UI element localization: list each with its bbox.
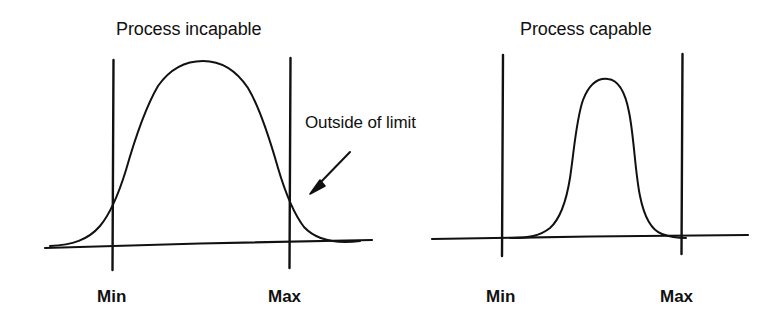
spec-limit-max-label-right: Max xyxy=(660,288,693,305)
distribution-curve-capable xyxy=(512,79,686,238)
baseline-right xyxy=(432,235,748,239)
panel-left xyxy=(45,58,372,270)
panel-title-capable: Process capable xyxy=(520,20,652,38)
capability-curves-svg xyxy=(0,0,776,330)
spec-limit-max-line-left xyxy=(290,58,291,268)
outside-of-limit-annotation: Outside of limit xyxy=(305,114,416,131)
spec-limit-min-label-left: Min xyxy=(97,288,126,305)
spec-limit-max-label-left: Max xyxy=(268,288,301,305)
process-capability-figure: Process incapable Process capable Outsid… xyxy=(0,0,776,330)
spec-limit-min-line-left xyxy=(113,60,114,270)
distribution-curve-incapable xyxy=(50,61,360,246)
spec-limit-min-line-right xyxy=(502,55,503,256)
outside-of-limit-arrow xyxy=(310,152,350,194)
panel-title-incapable: Process incapable xyxy=(116,20,261,38)
baseline-left xyxy=(45,240,372,248)
spec-limit-min-label-right: Min xyxy=(486,288,515,305)
spec-limit-max-line-right xyxy=(682,54,683,254)
panel-right xyxy=(432,54,748,256)
